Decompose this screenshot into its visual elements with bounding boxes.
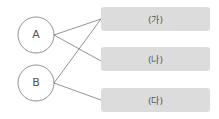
box-da: (다) xyxy=(101,88,210,112)
line-b-ga xyxy=(54,19,101,83)
node-a-label: A xyxy=(18,28,54,41)
line-a-na xyxy=(54,35,101,61)
box-na: (나) xyxy=(101,47,210,71)
node-b-label: B xyxy=(18,76,54,89)
line-b-da xyxy=(54,83,101,100)
line-a-ga xyxy=(54,19,101,35)
box-ga: (가) xyxy=(101,7,210,31)
